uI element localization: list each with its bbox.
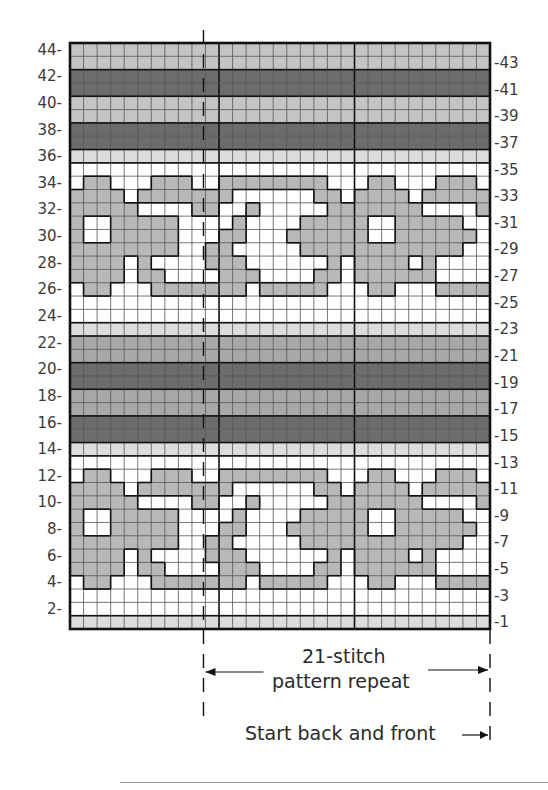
chart-cell [205, 83, 219, 97]
chart-cell [138, 216, 152, 230]
chart-cell [233, 216, 247, 230]
chart-cell [70, 389, 84, 403]
chart-cell [287, 150, 301, 164]
chart-cell [327, 549, 341, 563]
chart-cell [327, 562, 341, 576]
chart-cell [327, 216, 341, 230]
chart-cell [84, 269, 98, 283]
chart-cell [300, 123, 314, 137]
row-label: -11 [494, 480, 519, 498]
chart-cell [219, 70, 233, 84]
chart-cell [151, 483, 165, 497]
chart-cell [273, 416, 287, 430]
chart-cell [409, 522, 423, 536]
chart-cell [205, 203, 219, 217]
chart-cell [314, 190, 328, 204]
chart-cell [165, 283, 179, 297]
chart-cell [233, 389, 247, 403]
chart-cell [260, 416, 274, 430]
chart-cell [327, 349, 341, 363]
chart-cell [70, 150, 84, 164]
chart-cell [300, 323, 314, 337]
chart-cell [341, 443, 355, 457]
chart-cell [70, 56, 84, 70]
chart-cell [382, 150, 396, 164]
chart-cell [314, 389, 328, 403]
chart-cell [368, 416, 382, 430]
chart-cell [205, 576, 219, 590]
chart-cell [205, 136, 219, 150]
chart-cell [97, 576, 111, 590]
chart-cell [341, 43, 355, 57]
chart-cell [355, 562, 369, 576]
chart-cell [300, 83, 314, 97]
chart-cell [151, 96, 165, 110]
chart-cell [84, 536, 98, 550]
chart-cell [70, 536, 84, 550]
chart-cell [233, 443, 247, 457]
chart-cell [178, 70, 192, 84]
chart-cell [382, 536, 396, 550]
chart-cell [219, 150, 233, 164]
chart-cell [314, 150, 328, 164]
row-label: -31 [494, 214, 519, 232]
row-label: 20- [38, 360, 63, 378]
chart-cell [382, 336, 396, 350]
chart-cell [219, 403, 233, 417]
chart-cell [368, 176, 382, 190]
chart-cell [476, 136, 490, 150]
chart-cell [341, 150, 355, 164]
chart-cell [449, 536, 463, 550]
chart-cell [449, 150, 463, 164]
chart-cell [476, 150, 490, 164]
row-label: -39 [494, 107, 519, 125]
chart-cell [138, 562, 152, 576]
chart-cell [300, 110, 314, 124]
chart-cell [341, 203, 355, 217]
chart-cell [124, 522, 138, 536]
chart-cell [246, 203, 260, 217]
chart-cell [260, 469, 274, 483]
chart-cell [287, 403, 301, 417]
chart-cell [233, 123, 247, 137]
chart-cell [233, 336, 247, 350]
chart-cell [273, 429, 287, 443]
chart-cell [368, 429, 382, 443]
chart-cell [84, 336, 98, 350]
chart-cell [165, 83, 179, 97]
chart-cell [436, 403, 450, 417]
chart-cell [151, 509, 165, 523]
chart-cell [300, 509, 314, 523]
row-label: -35 [494, 161, 519, 179]
chart-cell [111, 429, 125, 443]
chart-cell [476, 496, 490, 510]
chart-cell [327, 150, 341, 164]
chart-cell [395, 483, 409, 497]
chart-cell [327, 203, 341, 217]
row-label: 26- [38, 280, 63, 298]
chart-cell [151, 269, 165, 283]
chart-cell [246, 443, 260, 457]
chart-cell [138, 150, 152, 164]
chart-cell [409, 403, 423, 417]
chart-cell [449, 190, 463, 204]
chart-cell [368, 363, 382, 377]
chart-cell [314, 243, 328, 257]
chart-cell [84, 283, 98, 297]
chart-cell [97, 616, 111, 630]
chart-cell [84, 376, 98, 390]
chart-cell [111, 203, 125, 217]
chart-cell [409, 616, 423, 630]
chart-cell [178, 389, 192, 403]
chart-cell [355, 389, 369, 403]
chart-cell [327, 70, 341, 84]
chart-cell [382, 562, 396, 576]
chart-cell [124, 110, 138, 124]
row-label: -21 [494, 347, 519, 365]
chart-cell [111, 256, 125, 270]
chart-cell [395, 536, 409, 550]
chart-cell [355, 203, 369, 217]
chart-cell [327, 269, 341, 283]
chart-cell [355, 536, 369, 550]
row-label: -23 [494, 320, 519, 338]
